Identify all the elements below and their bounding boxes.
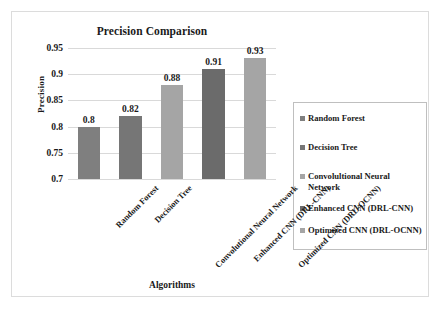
gridline xyxy=(68,48,276,49)
bar[interactable]: 0.91 xyxy=(202,69,224,179)
legend-label: Decision Tree xyxy=(308,142,357,153)
bar[interactable]: 0.82 xyxy=(119,116,141,179)
bar[interactable]: 0.93 xyxy=(244,58,266,179)
legend-item[interactable]: Optimized CNN (DRL-OCNN) xyxy=(300,225,422,236)
chart-frame: Precision Comparison Precision 0.70.750.… xyxy=(11,11,429,297)
x-axis-tick-label: Random Forest xyxy=(113,183,160,230)
y-axis-tick-label: 0.95 xyxy=(46,43,63,53)
chart-legend: Random ForestDecision TreeConvolultional… xyxy=(293,102,427,250)
chart-title: Precision Comparison xyxy=(12,25,292,37)
plot-area: 0.70.750.80.850.90.950.80.820.880.910.93 xyxy=(68,48,276,179)
bar-value-label: 0.8 xyxy=(83,115,95,125)
legend-label: Random Forest xyxy=(308,113,365,124)
y-axis-tick-label: 0.75 xyxy=(46,148,63,158)
legend-swatch-icon xyxy=(300,174,305,179)
y-axis-title: Precision xyxy=(36,76,46,113)
legend-swatch-icon xyxy=(300,116,305,121)
bar[interactable]: 0.8 xyxy=(78,127,100,179)
y-axis-tick-label: 0.9 xyxy=(51,69,63,79)
legend-swatch-icon xyxy=(300,145,305,150)
bar[interactable]: 0.88 xyxy=(161,85,183,179)
bar-value-label: 0.93 xyxy=(247,46,264,56)
x-axis-title: Algorithms xyxy=(68,280,276,290)
legend-item[interactable]: Decision Tree xyxy=(300,142,422,153)
y-axis-tick-label: 0.7 xyxy=(51,174,63,184)
bar-value-label: 0.82 xyxy=(122,104,139,114)
legend-swatch-icon xyxy=(300,228,305,233)
gridline xyxy=(68,179,276,180)
bar-value-label: 0.88 xyxy=(164,73,181,83)
y-axis-tick-label: 0.85 xyxy=(46,95,63,105)
legend-item[interactable]: Random Forest xyxy=(300,113,422,124)
y-axis-tick-label: 0.8 xyxy=(51,122,63,132)
bar-value-label: 0.91 xyxy=(205,57,222,67)
